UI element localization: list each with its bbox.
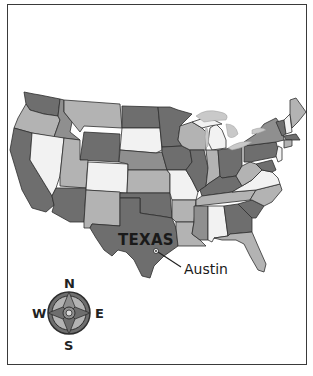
compass-south: S: [64, 338, 73, 353]
compass-west: W: [32, 306, 46, 321]
lake-huron: [226, 124, 238, 138]
state-massachusetts: [284, 134, 300, 140]
austin-label: Austin: [184, 261, 228, 277]
state-iowa: [162, 146, 192, 170]
compass-east: E: [95, 306, 104, 321]
texas-label: TEXAS: [118, 231, 174, 249]
state-colorado: [86, 162, 128, 193]
state-mississippi: [192, 206, 208, 240]
state-michigan: [208, 124, 226, 150]
state-wyoming: [80, 132, 120, 162]
compass-rose: [48, 292, 90, 334]
state-montana: [64, 100, 122, 132]
state-kansas: [127, 170, 170, 193]
austin-leader-line: [158, 252, 181, 267]
state-arkansas: [172, 200, 196, 222]
us-map: TEXAS Austin N S W E: [0, 0, 313, 376]
state-connecticut: [284, 140, 292, 148]
state-north-dakota: [122, 106, 160, 128]
compass-north: N: [64, 276, 75, 291]
lake-michigan: [205, 126, 209, 148]
state-arizona: [52, 188, 86, 222]
austin-capital-marker: [154, 249, 159, 254]
state-maine: [290, 98, 306, 128]
state-new-mexico: [84, 190, 120, 228]
state-south-dakota: [120, 128, 162, 153]
